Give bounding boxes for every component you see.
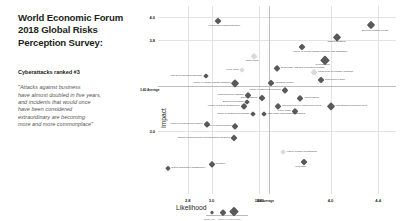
y-tick-label: 3.0 [149, 129, 155, 134]
data-point[interactable] [250, 111, 256, 117]
title-line-1: World Economic Forum [18, 12, 150, 24]
data-point[interactable] [280, 149, 286, 155]
data-point-label: Failure of national governance [249, 89, 281, 92]
data-point[interactable] [317, 77, 324, 84]
data-point[interactable] [327, 102, 335, 110]
data-point-label: Failure of climate-change mitigation [193, 82, 231, 85]
y-tick-label: 4.0 [149, 15, 155, 20]
data-point-label: Failure of urban planning [205, 124, 231, 127]
data-point-label: Deflation [216, 163, 225, 166]
data-point[interactable] [165, 165, 170, 170]
data-point-label: Water crises [245, 59, 258, 62]
quote-line-4: have been considered [18, 106, 150, 113]
size-legend-caption: Bubble size = number of respondents [204, 218, 240, 220]
page-title: World Economic Forum 2018 Global Risks P… [18, 12, 150, 49]
size-legend-bar [206, 215, 248, 216]
data-point[interactable] [231, 135, 238, 142]
data-point[interactable] [208, 161, 214, 167]
scatter-plot: Weapons of mass destructionExtreme weath… [158, 6, 396, 194]
quote-line-3: and incidents that would once [18, 99, 150, 106]
title-line-2: 2018 Global Risks [18, 24, 150, 36]
data-point-label: Extreme weather events [362, 29, 388, 32]
data-point-label: Man-made environmental disasters [268, 113, 305, 116]
y-gridline [158, 17, 396, 18]
data-point-label: Data fraud or theft [325, 79, 344, 82]
data-point[interactable] [274, 64, 280, 70]
size-legend-dot [210, 210, 214, 214]
x-average-tag: 3.48 Average [255, 199, 274, 203]
y-average-line [158, 86, 396, 87]
data-point-label: Failure of climate change mitigation and… [293, 50, 347, 53]
data-point[interactable] [232, 122, 238, 128]
data-point[interactable] [261, 111, 267, 117]
quote-line-1: "Attacks against business [18, 84, 150, 91]
x-gridline [331, 6, 332, 194]
data-point-label: Asset bubbles [304, 97, 319, 100]
slide-canvas: World Economic Forum 2018 Global Risks P… [0, 0, 400, 221]
quote-line-5: extraordinary are becoming [18, 114, 150, 121]
data-point[interactable] [296, 95, 302, 101]
data-point-label: Failure of financial mechanism [217, 113, 249, 116]
data-point[interactable] [311, 69, 317, 75]
data-point[interactable] [240, 67, 246, 73]
data-point-label: Failure of critical infrastructure [208, 105, 240, 108]
y-axis-label: Impact [160, 108, 167, 128]
x-tick-label: 2.8 [185, 198, 191, 203]
data-point-label: Large-scale involuntary migration [318, 71, 353, 74]
data-point[interactable] [240, 103, 246, 109]
y-gridline [158, 131, 396, 132]
bubble-size-legend: Bubble size = number of respondents [204, 206, 248, 220]
data-point-label: High structural unemployment [335, 105, 367, 108]
data-point-label: Unemployment or underemployment [282, 105, 321, 108]
quote-line-6: more and more commonplace" [18, 121, 150, 128]
size-legend-dot [229, 206, 238, 215]
x-gridline [378, 6, 379, 194]
quote-line-2: have almost doubled in five years, [18, 92, 150, 99]
data-point[interactable] [203, 73, 209, 79]
y-average-tag: 3.40 Average [140, 88, 159, 92]
x-tick-label: 4.4 [375, 198, 381, 203]
y-tick-label: 3.8 [149, 38, 155, 43]
x-tick-label: 4.0 [328, 198, 334, 203]
data-point-label: Failure of regional governance [170, 123, 202, 126]
text-panel: World Economic Forum 2018 Global Risks P… [18, 12, 150, 129]
x-tick-label: 3.0 [209, 198, 215, 203]
x-axis-label: Likelihood [176, 204, 207, 211]
data-point-label: Natural disasters [328, 40, 346, 43]
data-point-label: Adverse consequences of technological ad… [177, 137, 230, 140]
data-point-label: Failure of state mechanisms [287, 150, 317, 153]
subheading: Cyberattacks ranked #3 [18, 69, 150, 75]
data-point-label: Biodiversity loss and ecosystem collapse [281, 66, 324, 69]
data-point-label: Critical information infrastructure [171, 166, 205, 169]
size-legend-dot [220, 209, 226, 215]
title-line-3: Perception Survey: [18, 37, 150, 49]
y-gridline [158, 40, 396, 41]
data-point-label: Energy price shock [223, 100, 243, 103]
quote-block: "Attacks against business have almost do… [18, 84, 150, 128]
data-point-label: Interstate conflict [275, 82, 293, 85]
x-average-line [269, 6, 270, 194]
data-point-label: Food crises [226, 68, 238, 71]
data-point-label: Spread of infectious diseases [171, 74, 202, 77]
data-point-label: Weapons of mass destruction [209, 24, 241, 27]
data-point-label: Illicit trade [295, 165, 306, 168]
data-point[interactable] [282, 87, 288, 93]
